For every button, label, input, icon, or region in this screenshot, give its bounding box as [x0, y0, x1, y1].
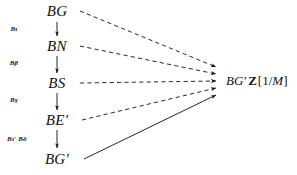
edge-bg-target: [80, 11, 216, 67]
node-bs: BS: [48, 75, 65, 92]
target-object-label: BG′Z[1/M]: [226, 73, 288, 89]
arrow-label-b-iota: Bι: [10, 25, 17, 33]
target-bracket-close: ]: [283, 73, 287, 88]
edge-bn-target: [80, 46, 216, 74]
target-bracket-open: [1/: [258, 73, 272, 88]
arrow-label-b-iota-prime-b-delta: Bι′ Bδ: [7, 135, 27, 143]
target-bold-z: Z: [246, 73, 258, 88]
target-bracket-var: M: [272, 73, 283, 88]
node-be-prime: BE′: [46, 112, 69, 129]
edge-bep-target: [82, 88, 216, 120]
arrow-label-b-gamma: Bγ: [10, 96, 18, 104]
edge-bs-target: [80, 81, 216, 83]
node-bg: BG: [47, 3, 68, 20]
node-bg-prime: BG′: [45, 151, 69, 168]
edge-bgp-target: [84, 95, 216, 159]
target-ring-part: BG′: [226, 73, 246, 88]
commutative-diagram: BG BN BS BE′ BG′ Bι Bβ Bγ Bι′ Bδ BG′Z[1/…: [0, 0, 297, 175]
convergent-edge-group: [80, 11, 216, 159]
node-bn: BN: [47, 38, 67, 55]
arrow-label-b-beta: Bβ: [10, 59, 19, 67]
